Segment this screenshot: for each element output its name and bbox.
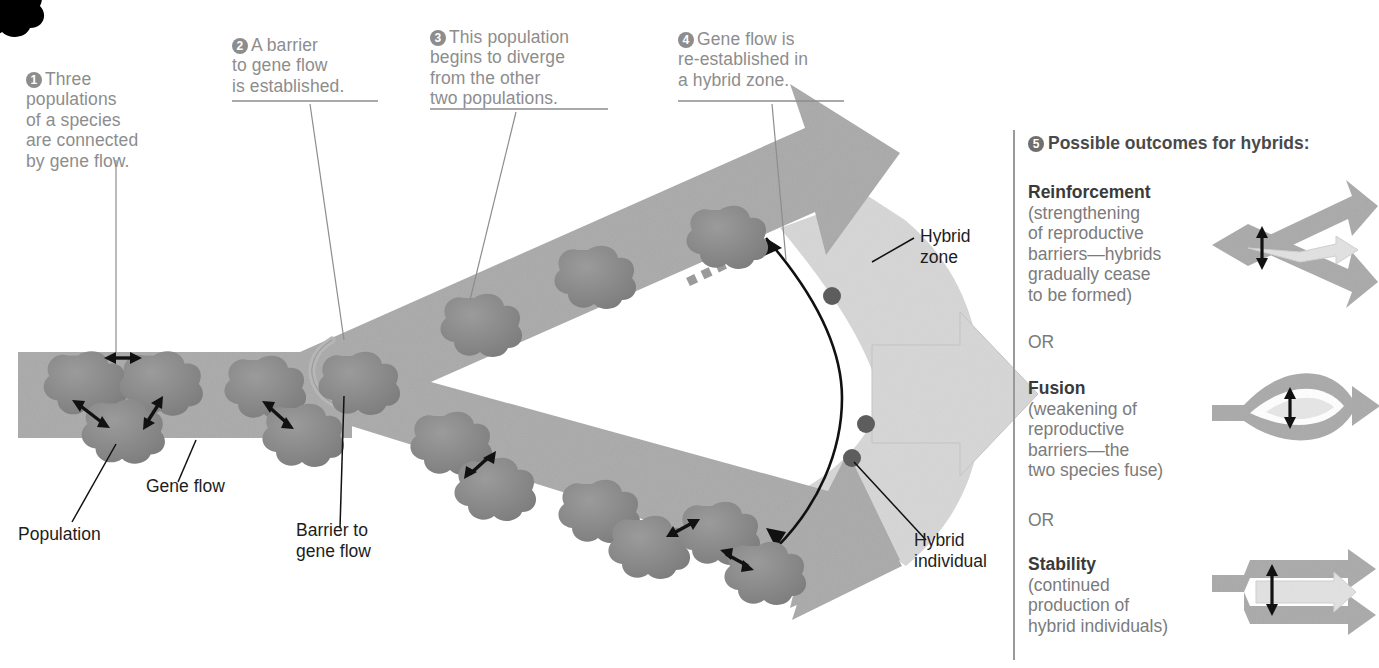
- outcome-fusion-body: (weakening of reproductive barriers—the …: [1028, 399, 1228, 481]
- outcome-reinforcement-title: Reinforcement: [1028, 182, 1228, 203]
- callout-1-number: 1: [26, 72, 42, 88]
- callout-1-lead: Three: [45, 69, 91, 89]
- outcome-stability: Stability (continued production of hybri…: [1028, 554, 1228, 636]
- callout-2-body: to gene flow is established.: [232, 55, 344, 96]
- callout-1: 1Threepopulations of a species are conne…: [26, 48, 216, 171]
- figure-canvas: 1Threepopulations of a species are conne…: [0, 0, 1379, 668]
- hybrid-individual-dot: [823, 287, 841, 305]
- or-separator-1: OR: [1028, 332, 1054, 353]
- leader-line-2: [310, 104, 344, 340]
- label-gene-flow: Gene flow: [146, 476, 225, 497]
- label-hybrid-zone: Hybrid zone: [920, 226, 971, 267]
- hybrid-individual-dot: [843, 449, 861, 467]
- callout-3-number: 3: [430, 30, 446, 46]
- or-separator-2: OR: [1028, 510, 1054, 531]
- label-hybrid-individual: Hybrid individual: [914, 530, 987, 571]
- outcome-fusion: Fusion (weakening of reproductive barrie…: [1028, 378, 1228, 481]
- outcome-stability-body: (continued production of hybrid individu…: [1028, 575, 1228, 637]
- callout-2: 2A barrierto gene flow is established.: [232, 14, 392, 96]
- callout-4: 4Gene flow isre-established in a hybrid …: [678, 8, 868, 90]
- outcome-fusion-title: Fusion: [1028, 378, 1228, 399]
- callout-4-number: 4: [678, 32, 694, 48]
- outcomes-panel: 5Possible outcomes for hybrids: Reinforc…: [1013, 130, 1379, 660]
- outcome-stability-title: Stability: [1028, 554, 1228, 575]
- callout-2-lead: A barrier: [251, 35, 318, 55]
- callout-1-body: populations of a species are connected b…: [26, 89, 138, 171]
- panel-number: 5: [1028, 136, 1044, 152]
- outcome-reinforcement-body: (strengthening of reproductive barriers—…: [1028, 203, 1228, 306]
- callout-4-lead: Gene flow is: [697, 29, 795, 49]
- hybrid-individual-dot: [857, 415, 875, 433]
- callout-3: 3This populationbegins to diverge from t…: [430, 6, 630, 109]
- panel-heading-text: Possible outcomes for hybrids:: [1048, 133, 1310, 153]
- label-population: Population: [18, 524, 101, 545]
- label-barrier-to-gene-flow: Barrier to gene flow: [296, 520, 371, 561]
- callout-4-body: re-established in a hybrid zone.: [678, 49, 808, 90]
- callout-2-number: 2: [232, 38, 248, 54]
- leader-population: [72, 444, 116, 522]
- outcome-reinforcement: Reinforcement (strengthening of reproduc…: [1028, 182, 1228, 305]
- callout-3-body: begins to diverge from the other two pop…: [430, 47, 565, 108]
- callout-3-lead: This population: [449, 27, 569, 47]
- panel-heading: 5Possible outcomes for hybrids:: [1028, 133, 1379, 154]
